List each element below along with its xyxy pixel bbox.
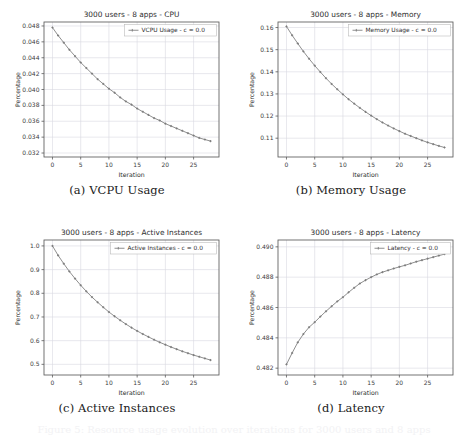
y-tick-label: 1.0 [30, 242, 40, 249]
subfigure-c: 05101520250.50.60.70.80.91.03000 users -… [0, 218, 234, 436]
y-tick-label: 0.6 [30, 337, 40, 344]
x-axis-label: Iteration [118, 389, 144, 396]
x-tick-label: 0 [285, 379, 289, 386]
data-markers [51, 245, 211, 361]
x-tick-label: 5 [313, 379, 317, 386]
data-line [52, 28, 210, 142]
y-tick-label: 0.044 [22, 54, 39, 61]
x-tick-label: 15 [133, 161, 141, 168]
x-tick-label: 20 [162, 161, 170, 168]
y-tick-label: 0.032 [22, 149, 39, 156]
chart-legend: Latency - c = 0.0 [371, 243, 451, 255]
legend-label: Memory Usage - c = 0.0 [366, 27, 438, 34]
plot-area-a: 05101520250.0320.0340.0360.0380.0400.042… [0, 0, 234, 186]
chart-legend: VCPU Usage - c = 0.0 [125, 25, 217, 37]
x-axis-label: Iteration [352, 389, 378, 396]
y-tick-label: 0.034 [22, 133, 39, 140]
y-tick-label: 0.486 [256, 304, 273, 311]
y-tick-label: 0.488 [256, 273, 273, 280]
cutoff-figure-caption: Figure 5: Resource usage evolution over … [0, 424, 468, 436]
caption-c: (c) Active Instances [0, 401, 234, 415]
grid-lines [44, 22, 219, 157]
data-markers [285, 25, 445, 148]
x-axis-label: Iteration [118, 171, 144, 178]
y-tick-label: 0.038 [22, 101, 39, 108]
chart-title: 3000 users - 8 apps - Active Instances [61, 228, 202, 237]
x-tick-label: 10 [339, 379, 347, 386]
chart-title: 3000 users - 8 apps - CPU [84, 10, 180, 19]
y-tick-label: 0.036 [22, 117, 39, 124]
y-tick-label: 0.048 [22, 22, 39, 29]
x-tick-label: 25 [424, 379, 432, 386]
x-tick-label: 20 [162, 379, 170, 386]
x-tick-label: 25 [190, 379, 198, 386]
y-tick-label: 0.14 [260, 68, 274, 75]
x-tick-label: 5 [79, 161, 83, 168]
y-axis-label: Percentage [248, 290, 256, 325]
x-tick-label: 15 [367, 161, 375, 168]
line-chart-d: 05101520250.4820.4840.4860.4880.4903000 … [234, 218, 468, 404]
axes-frame [278, 22, 453, 157]
x-tick-label: 20 [396, 379, 404, 386]
line-chart-b: 05101520250.110.120.130.140.150.163000 u… [234, 0, 468, 186]
x-tick-label: 15 [367, 379, 375, 386]
y-tick-label: 0.046 [22, 38, 39, 45]
x-tick-label: 5 [79, 379, 83, 386]
subfigure-b: 05101520250.110.120.130.140.150.163000 u… [234, 0, 468, 218]
tick-labels: 05101520250.0320.0340.0360.0380.0400.042… [22, 22, 197, 168]
y-axis-label: Percentage [248, 72, 256, 107]
subfigure-a: 05101520250.0320.0340.0360.0380.0400.042… [0, 0, 234, 218]
x-tick-label: 20 [396, 161, 404, 168]
subfigure-d: 05101520250.4820.4840.4860.4880.4903000 … [234, 218, 468, 436]
x-tick-label: 25 [424, 161, 432, 168]
plot-area-b: 05101520250.110.120.130.140.150.163000 u… [234, 0, 468, 186]
chart-legend: Memory Usage - c = 0.0 [349, 25, 451, 37]
data-line [286, 254, 444, 364]
figure-sheet: 05101520250.0320.0340.0360.0380.0400.042… [0, 0, 468, 436]
chart-legend: Active Instances - c = 0.0 [111, 243, 217, 255]
x-tick-label: 25 [190, 161, 198, 168]
plot-area-d: 05101520250.4820.4840.4860.4880.4903000 … [234, 218, 468, 404]
y-tick-label: 0.8 [30, 289, 40, 296]
y-tick-label: 0.042 [22, 70, 39, 77]
x-tick-label: 0 [51, 161, 55, 168]
y-tick-label: 0.16 [260, 24, 274, 31]
x-tick-label: 10 [105, 161, 113, 168]
x-tick-label: 10 [105, 379, 113, 386]
plot-area-c: 05101520250.50.60.70.80.91.03000 users -… [0, 218, 234, 404]
y-tick-label: 0.12 [260, 112, 274, 119]
tick-labels: 05101520250.110.120.130.140.150.16 [260, 24, 431, 168]
y-tick-label: 0.15 [260, 46, 274, 53]
x-axis-label: Iteration [352, 171, 378, 178]
y-tick-label: 0.5 [30, 360, 40, 367]
y-tick-label: 0.7 [30, 313, 40, 320]
data-markers [285, 253, 445, 365]
data-line [52, 246, 210, 360]
y-axis-label: Percentage [14, 290, 22, 325]
x-tick-label: 0 [285, 161, 289, 168]
caption-b: (b) Memory Usage [234, 183, 468, 197]
y-tick-label: 0.9 [30, 266, 40, 273]
x-tick-label: 15 [133, 379, 141, 386]
data-markers [51, 26, 211, 142]
grid-lines [278, 240, 453, 375]
x-tick-label: 5 [313, 161, 317, 168]
y-tick-label: 0.482 [256, 364, 273, 371]
legend-label: Active Instances - c = 0.0 [128, 245, 204, 251]
legend-label: VCPU Usage - c = 0.0 [142, 27, 206, 34]
y-tick-label: 0.13 [260, 90, 274, 97]
y-tick-label: 0.11 [260, 134, 274, 141]
caption-a: (a) VCPU Usage [0, 183, 234, 197]
legend-label: Latency - c = 0.0 [388, 245, 439, 252]
caption-d: (d) Latency [234, 401, 468, 415]
chart-title: 3000 users - 8 apps - Memory [310, 10, 421, 19]
line-chart-a: 05101520250.0320.0340.0360.0380.0400.042… [0, 0, 234, 186]
line-chart-c: 05101520250.50.60.70.80.91.03000 users -… [0, 218, 234, 404]
y-tick-label: 0.040 [22, 86, 39, 93]
data-line [286, 26, 444, 147]
x-tick-label: 0 [51, 379, 55, 386]
y-axis-label: Percentage [14, 72, 22, 107]
y-tick-label: 0.490 [256, 243, 273, 250]
x-tick-label: 10 [339, 161, 347, 168]
y-tick-label: 0.484 [256, 334, 273, 341]
